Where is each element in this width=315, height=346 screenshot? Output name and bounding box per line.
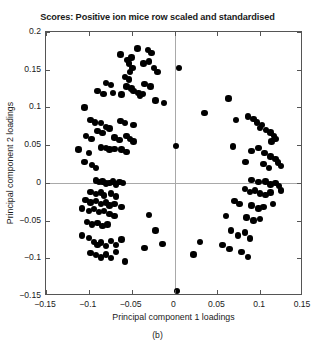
scatter-point xyxy=(104,221,110,227)
scatter-point xyxy=(266,165,272,171)
scatter-point xyxy=(127,69,133,75)
scatter-point xyxy=(152,97,158,103)
scatter-point xyxy=(238,249,244,255)
scatter-point xyxy=(148,50,154,56)
x-tick-mark xyxy=(132,290,133,294)
scatter-point xyxy=(278,187,284,193)
y-tick-mark xyxy=(297,107,301,108)
scatter-point xyxy=(108,255,114,261)
scatter-point xyxy=(173,143,179,149)
x-tick-label: 0.1 xyxy=(253,299,265,309)
scatter-point xyxy=(267,189,273,195)
x-tick-mark xyxy=(89,32,90,36)
x-tick-mark xyxy=(260,32,261,36)
y-tick-mark xyxy=(297,145,301,146)
y-tick-mark xyxy=(297,221,301,222)
scatter-point xyxy=(122,120,128,126)
scatter-point xyxy=(159,241,165,247)
scatter-point xyxy=(81,104,87,110)
scatter-point xyxy=(225,95,231,101)
scatter-point xyxy=(219,242,225,248)
y-tick-mark xyxy=(46,70,50,71)
scatter-point xyxy=(81,159,87,165)
vertical-reference-line xyxy=(175,32,176,294)
x-axis-title: Principal component 1 loadings xyxy=(45,312,302,322)
scatter-point xyxy=(120,180,126,186)
x-tick-mark xyxy=(175,32,176,36)
scatter-point xyxy=(248,177,254,183)
scatter-point xyxy=(123,149,129,155)
scatter-point xyxy=(233,117,239,123)
scatter-point xyxy=(270,201,276,207)
scatter-point xyxy=(116,137,122,143)
x-tick-mark xyxy=(217,290,218,294)
scatter-point xyxy=(106,125,112,131)
scatter-point xyxy=(260,204,266,210)
scatter-point xyxy=(247,235,253,241)
scatter-point xyxy=(245,254,251,260)
scatter-point xyxy=(130,122,136,128)
scatter-point xyxy=(103,243,109,249)
scatter-point xyxy=(100,91,106,97)
scatter-point xyxy=(101,192,107,198)
x-tick-mark xyxy=(89,290,90,294)
scatter-point xyxy=(110,90,116,96)
y-tick-mark xyxy=(46,107,50,108)
scatter-point xyxy=(111,213,117,219)
y-axis-title: Principal component 2 loadings xyxy=(5,63,15,263)
y-tick-mark xyxy=(46,221,50,222)
scatter-point xyxy=(235,232,241,238)
scatter-point xyxy=(113,193,119,199)
scatter-point xyxy=(236,201,242,207)
scatter-point xyxy=(79,232,85,238)
scatter-point xyxy=(243,214,249,220)
x-tick-label: 0.15 xyxy=(294,299,311,309)
scatter-point xyxy=(147,83,153,89)
scatter-point xyxy=(268,138,274,144)
y-tick-mark xyxy=(297,258,301,259)
y-tick-label: 0.2 xyxy=(1,26,41,36)
scatter-point xyxy=(111,201,117,207)
scatter-point xyxy=(117,51,123,57)
scatter-point xyxy=(278,163,284,169)
x-tick-mark xyxy=(46,290,47,294)
scatter-point xyxy=(88,136,94,142)
y-tick-mark xyxy=(46,145,50,146)
scatter-point xyxy=(134,45,140,51)
scatter-point xyxy=(140,91,146,97)
scatter-point xyxy=(108,82,114,88)
scatter-point xyxy=(248,202,254,208)
scatter-point xyxy=(79,205,85,211)
x-tick-label: 0 xyxy=(171,299,176,309)
figure-caption: (b) xyxy=(0,330,315,340)
scatter-point xyxy=(250,217,256,223)
scatter-point xyxy=(141,245,147,251)
scatter-point xyxy=(152,227,158,233)
x-tick-mark xyxy=(46,32,47,36)
scatter-point xyxy=(75,146,81,152)
scatter-point xyxy=(248,148,254,154)
scatter-point xyxy=(118,236,124,242)
x-tick-label: −0.15 xyxy=(34,299,56,309)
scatter-point xyxy=(255,179,261,185)
scatter-point xyxy=(230,143,236,149)
scatter-point xyxy=(154,69,160,75)
scatter-point xyxy=(190,251,196,257)
x-tick-mark xyxy=(132,32,133,36)
scatter-point xyxy=(111,146,117,152)
scatter-point xyxy=(146,212,152,218)
scatter-point xyxy=(130,138,136,144)
y-tick-mark xyxy=(297,183,301,184)
y-tick-mark xyxy=(46,183,50,184)
plot-area xyxy=(45,31,302,295)
scatter-point xyxy=(197,239,203,245)
x-tick-mark xyxy=(217,32,218,36)
scatter-point xyxy=(223,213,229,219)
scatter-point xyxy=(122,258,128,264)
scatter-point xyxy=(99,130,105,136)
y-tick-mark xyxy=(297,70,301,71)
scatter-point xyxy=(118,204,124,210)
scatter-point xyxy=(226,246,232,252)
scatter-point xyxy=(86,150,92,156)
x-tick-label: 0.05 xyxy=(208,299,225,309)
